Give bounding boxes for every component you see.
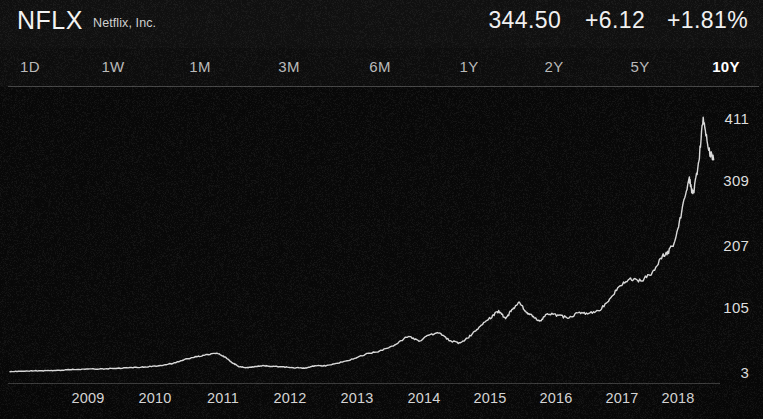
timeframe-tab-5y[interactable]: 5Y: [631, 58, 650, 75]
price-line: [0, 87, 763, 419]
timeframe-tabs: 1D1W1M3M6M1Y2Y5Y10Y: [0, 48, 763, 87]
company-name: Netflix, Inc.: [93, 16, 156, 30]
ticker-symbol: NFLX: [17, 6, 83, 35]
x-tick-label: 2011: [207, 390, 239, 406]
timeframe-tab-1m[interactable]: 1M: [189, 58, 210, 75]
quote-values: 344.50 +6.12 +1.81%: [488, 7, 748, 34]
y-tick-label: 207: [723, 237, 749, 254]
y-tick-label: 105: [723, 299, 749, 316]
timeframe-tab-10y[interactable]: 10Y: [712, 58, 740, 75]
timeframe-tab-6m[interactable]: 6M: [369, 58, 390, 75]
price-chart: [0, 87, 763, 419]
price-change: +6.12: [585, 7, 645, 34]
timeframe-tab-1y[interactable]: 1Y: [460, 58, 479, 75]
y-tick-label: 309: [723, 172, 749, 189]
stock-chart-screen: NFLX Netflix, Inc. 344.50 +6.12 +1.81% 1…: [0, 0, 763, 419]
x-tick-label: 2013: [340, 390, 373, 406]
x-tick-label: 2018: [661, 390, 694, 406]
x-tick-label: 2010: [138, 390, 171, 406]
timeframe-tab-1d[interactable]: 1D: [20, 58, 40, 75]
y-tick-label: 3: [740, 364, 749, 381]
last-price: 344.50: [488, 7, 561, 34]
x-tick-label: 2017: [605, 390, 638, 406]
x-tick-label: 2016: [539, 390, 572, 406]
timeframe-tab-2y[interactable]: 2Y: [545, 58, 564, 75]
x-tick-label: 2009: [71, 390, 104, 406]
x-tick-label: 2015: [473, 390, 506, 406]
x-tick-label: 2012: [273, 390, 306, 406]
percent-change: +1.81%: [667, 7, 748, 34]
timeframe-tab-1w[interactable]: 1W: [101, 58, 124, 75]
y-tick-label: 411: [724, 110, 749, 127]
x-tick-label: 2014: [407, 390, 440, 406]
quote-header: NFLX Netflix, Inc. 344.50 +6.12 +1.81%: [0, 0, 763, 48]
timeframe-tab-3m[interactable]: 3M: [278, 58, 299, 75]
